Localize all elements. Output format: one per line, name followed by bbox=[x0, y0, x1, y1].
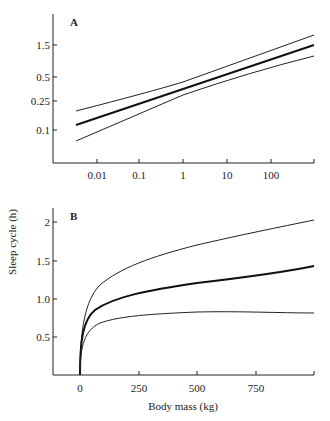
upper-bound-line-a bbox=[76, 35, 314, 111]
x-tick-a: 10 bbox=[222, 169, 234, 181]
panel-b: B 2 1.5 1.0 0.5 0 250 500 750 Body mass … bbox=[36, 208, 314, 413]
x-tick-b: 750 bbox=[248, 382, 265, 394]
x-tick-b: 250 bbox=[131, 382, 148, 394]
x-tick-a: 0.01 bbox=[87, 169, 106, 181]
lower-bound-line-b bbox=[80, 312, 314, 375]
x-axis-label: Body mass (kg) bbox=[148, 400, 218, 413]
y-tick-a: 0.1 bbox=[36, 124, 50, 136]
x-tick-b: 500 bbox=[189, 382, 206, 394]
panel-a: A 1.5 0.5 0.25 0.1 0.01 0.1 1 10 100 bbox=[31, 14, 314, 181]
y-tick-a: 0.25 bbox=[31, 95, 51, 107]
y-tick-a: 0.5 bbox=[36, 71, 50, 83]
y-tick-a: 1.5 bbox=[36, 39, 50, 51]
y-tick-b: 1.5 bbox=[36, 255, 50, 267]
fit-line-a bbox=[76, 45, 314, 125]
upper-bound-line-b bbox=[80, 220, 314, 375]
y-tick-b: 0.5 bbox=[36, 331, 50, 343]
x-tick-b: 0 bbox=[77, 382, 83, 394]
panel-label-a: A bbox=[70, 16, 78, 28]
x-tick-a: 100 bbox=[263, 169, 280, 181]
x-tick-a: 1 bbox=[180, 169, 186, 181]
fit-line-b bbox=[80, 266, 314, 375]
x-tick-a: 0.1 bbox=[132, 169, 146, 181]
y-tick-b: 1.0 bbox=[36, 293, 50, 305]
y-tick-b: 2 bbox=[45, 216, 51, 228]
figure: A 1.5 0.5 0.25 0.1 0.01 0.1 1 10 100 Sle… bbox=[0, 0, 330, 421]
panel-label-b: B bbox=[70, 210, 78, 222]
y-axis-label: Sleep cycle (h) bbox=[6, 209, 19, 275]
lower-bound-line-a bbox=[76, 56, 314, 141]
